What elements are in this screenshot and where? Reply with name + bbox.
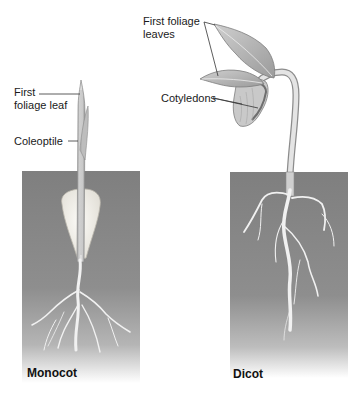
illustration <box>0 0 363 394</box>
dicot-title: Dicot <box>233 367 263 381</box>
seedling-comparison-figure: First foliage leaf Coleoptile Monocot Fi… <box>0 0 363 394</box>
label-first-foliage-leaves-line1: First foliage <box>143 15 200 28</box>
label-coleoptile: Coleoptile <box>14 135 63 148</box>
label-first-foliage-leaf-line2: foliage leaf <box>14 99 67 112</box>
monocot-title: Monocot <box>27 366 77 380</box>
label-first-foliage-leaf: First foliage leaf <box>14 86 67 112</box>
label-first-foliage-leaf-line1: First <box>14 86 67 99</box>
label-first-foliage-leaves: First foliage leaves <box>143 15 200 41</box>
label-first-foliage-leaves-line2: leaves <box>143 28 200 41</box>
label-cotyledons: Cotyledons <box>161 92 216 105</box>
